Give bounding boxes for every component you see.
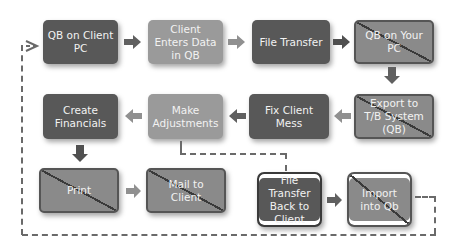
dashed-arrowhead-icon — [24, 39, 40, 53]
node-make-adjustments: Make Adjustments — [148, 94, 223, 139]
arrow-down-icon — [72, 145, 88, 163]
node-create-financials: Create Financials — [43, 94, 118, 139]
node-export-to-tb: Export to T/B System (QB) — [354, 94, 434, 139]
node-mail-to-client: Mail to Client — [146, 168, 226, 213]
node-label: Import into Qb — [353, 187, 406, 213]
node-label: File Transfer Back to Client — [263, 174, 316, 226]
node-fix-client-mess: Fix Client Mess — [249, 94, 329, 139]
arrow-right-icon — [333, 35, 351, 49]
dashed-line — [180, 153, 286, 155]
dashed-line — [285, 153, 287, 171]
dashed-line — [434, 196, 436, 234]
node-client-enters-data: Client Enters Data in QB — [148, 20, 223, 64]
dashed-line — [21, 45, 23, 235]
node-label: Print — [67, 184, 91, 197]
node-label: QB on Client PC — [47, 29, 114, 55]
node-print: Print — [39, 168, 119, 213]
node-qb-on-client-pc: QB on Client PC — [43, 20, 118, 64]
node-label: QB on Your PC — [360, 29, 428, 55]
node-label: Export to T/B System (QB) — [360, 97, 428, 136]
dashed-line — [415, 196, 435, 198]
node-label: Client Enters Data in QB — [152, 23, 219, 62]
arrow-right-icon — [126, 184, 142, 198]
node-file-transfer-back: File Transfer Back to Client — [257, 172, 322, 227]
dashed-line — [180, 141, 182, 153]
arrow-left-icon — [125, 109, 143, 123]
arrow-right-icon — [228, 35, 246, 49]
arrow-left-icon — [334, 109, 352, 123]
arrow-left-icon — [229, 109, 247, 123]
dashed-line — [22, 234, 436, 236]
node-import-into-qb: Import into Qb — [347, 172, 412, 227]
node-file-transfer: File Transfer — [252, 20, 330, 64]
arrow-down-icon — [384, 67, 400, 85]
node-label: File Transfer — [259, 36, 322, 49]
arrow-right-icon — [124, 35, 142, 49]
node-label: Make Adjustments — [152, 104, 219, 130]
node-label: Create Financials — [47, 104, 114, 130]
node-qb-on-your-pc: QB on Your PC — [354, 20, 434, 64]
node-label: Fix Client Mess — [253, 104, 325, 130]
node-label: Mail to Client — [152, 178, 220, 204]
arrow-right-icon — [327, 193, 343, 207]
